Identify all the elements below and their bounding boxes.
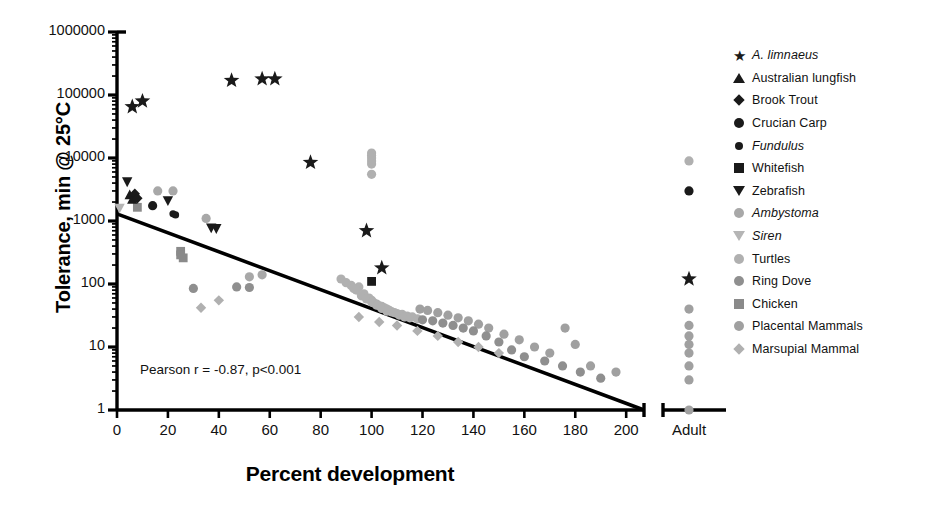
data-point <box>499 330 508 339</box>
circle-sm-marker-icon <box>726 142 752 150</box>
legend-item-label: Australian lungfish <box>752 71 856 85</box>
data-point-adult <box>684 304 693 313</box>
data-point <box>484 323 493 332</box>
data-point-adult <box>684 405 693 414</box>
legend-item-a-limnaeus[interactable]: ★A. limnaeus <box>726 44 941 67</box>
legend: ★A. limnaeusAustralian lungfishBrook Tro… <box>726 44 941 360</box>
data-point <box>163 196 173 206</box>
data-point <box>576 367 585 376</box>
data-point <box>148 201 157 210</box>
x-tick-label: 140 <box>450 421 496 438</box>
data-point <box>349 284 358 293</box>
series-chicken <box>133 203 188 262</box>
star-marker-icon: ★ <box>726 48 752 63</box>
data-point <box>448 321 457 330</box>
data-point <box>122 177 132 187</box>
legend-item-ambystoma[interactable]: Ambystoma <box>726 202 941 225</box>
legend-item-ring-dove[interactable]: Ring Dove <box>726 270 941 293</box>
legend-item-whitefish[interactable]: Whitefish <box>726 157 941 180</box>
legend-item-label: Placental Mammals <box>752 319 863 333</box>
data-point <box>415 304 424 313</box>
series-a-limnaeus <box>124 71 696 286</box>
data-point <box>224 72 240 87</box>
legend-item-placental-mammals[interactable]: Placental Mammals <box>726 315 941 338</box>
diamond-marker-icon <box>726 345 752 353</box>
data-point <box>469 326 478 335</box>
x-tick-label: 160 <box>501 421 547 438</box>
series-marsupial-mammal <box>196 295 504 358</box>
square-marker-icon <box>726 299 752 309</box>
series-turtles <box>336 148 693 323</box>
legend-item-label: Zebrafish <box>752 184 805 198</box>
x-tick-label: 40 <box>196 421 242 438</box>
data-point <box>560 323 569 332</box>
y-tick-label: 10 <box>13 337 105 353</box>
x-tick-label: 60 <box>247 421 293 438</box>
data-point <box>494 337 503 346</box>
legend-item-label: Fundulus <box>752 139 804 153</box>
data-point-adult <box>684 156 693 165</box>
legend-item-crucian-carp[interactable]: Crucian Carp <box>726 112 941 135</box>
legend-item-label: Siren <box>752 229 782 243</box>
y-axis-title: Tolerance, min @ 25°C <box>52 58 75 358</box>
legend-item-australian-lungfish[interactable]: Australian lungfish <box>726 67 941 90</box>
data-point-adult <box>684 186 693 195</box>
data-point <box>359 223 375 238</box>
data-point <box>418 315 427 324</box>
x-tick-label: 20 <box>145 421 191 438</box>
legend-item-brook-trout[interactable]: Brook Trout <box>726 89 941 112</box>
data-point <box>454 313 463 322</box>
data-point <box>245 272 254 281</box>
data-point <box>428 316 437 325</box>
data-point <box>202 214 211 223</box>
pearson-annotation: Pearson r = -0.87, p<0.001 <box>140 362 301 377</box>
data-point-adult <box>684 331 693 340</box>
series-placental-mammals <box>415 304 693 414</box>
legend-item-fundulus[interactable]: Fundulus <box>726 134 941 157</box>
data-point <box>232 282 241 291</box>
data-point <box>586 361 595 370</box>
data-point <box>172 211 179 218</box>
adult-tick-label: Adult <box>654 421 724 438</box>
data-point <box>443 311 452 320</box>
legend-item-chicken[interactable]: Chicken <box>726 293 941 316</box>
series-crucian-carp <box>148 186 694 210</box>
data-point <box>342 278 351 287</box>
data-point <box>540 356 549 365</box>
x-axis-title: Percent development <box>140 462 560 486</box>
legend-item-zebrafish[interactable]: Zebrafish <box>726 180 941 203</box>
legend-item-label: Brook Trout <box>752 93 818 107</box>
data-point <box>482 331 491 340</box>
data-point <box>254 71 270 86</box>
legend-item-label: Chicken <box>752 297 798 311</box>
legend-item-label: Turtles <box>752 252 790 266</box>
y-tick-label: 1000 <box>13 211 105 227</box>
triangle-dn-marker-icon <box>726 186 752 196</box>
legend-item-turtles[interactable]: Turtles <box>726 247 941 270</box>
x-tick-label: 0 <box>94 421 140 438</box>
data-point <box>507 345 516 354</box>
data-point <box>367 160 376 169</box>
data-point <box>423 306 432 315</box>
data-point <box>374 317 384 327</box>
legend-item-marsupial-mammal[interactable]: Marsupial Mammal <box>726 338 941 361</box>
data-point-adult <box>684 375 693 384</box>
legend-item-siren[interactable]: Siren <box>726 225 941 248</box>
circle-marker-icon <box>726 118 752 128</box>
data-point <box>374 260 390 275</box>
y-tick-label: 100 <box>13 274 105 290</box>
data-point <box>571 340 580 349</box>
data-point <box>179 253 188 262</box>
legend-item-label: Whitefish <box>752 161 804 175</box>
x-tick-label: 200 <box>603 421 649 438</box>
circle-marker-icon <box>726 276 752 286</box>
circle-marker-icon <box>726 321 752 331</box>
data-point-adult <box>684 361 693 370</box>
y-tick-label: 1 <box>13 400 105 416</box>
data-point <box>515 335 524 344</box>
data-point <box>303 154 319 169</box>
figure-root: Tolerance, min @ 25°C Percent developmen… <box>0 0 951 514</box>
data-point <box>133 203 142 212</box>
y-tick-label: 100000 <box>13 85 105 101</box>
data-point <box>189 284 198 293</box>
